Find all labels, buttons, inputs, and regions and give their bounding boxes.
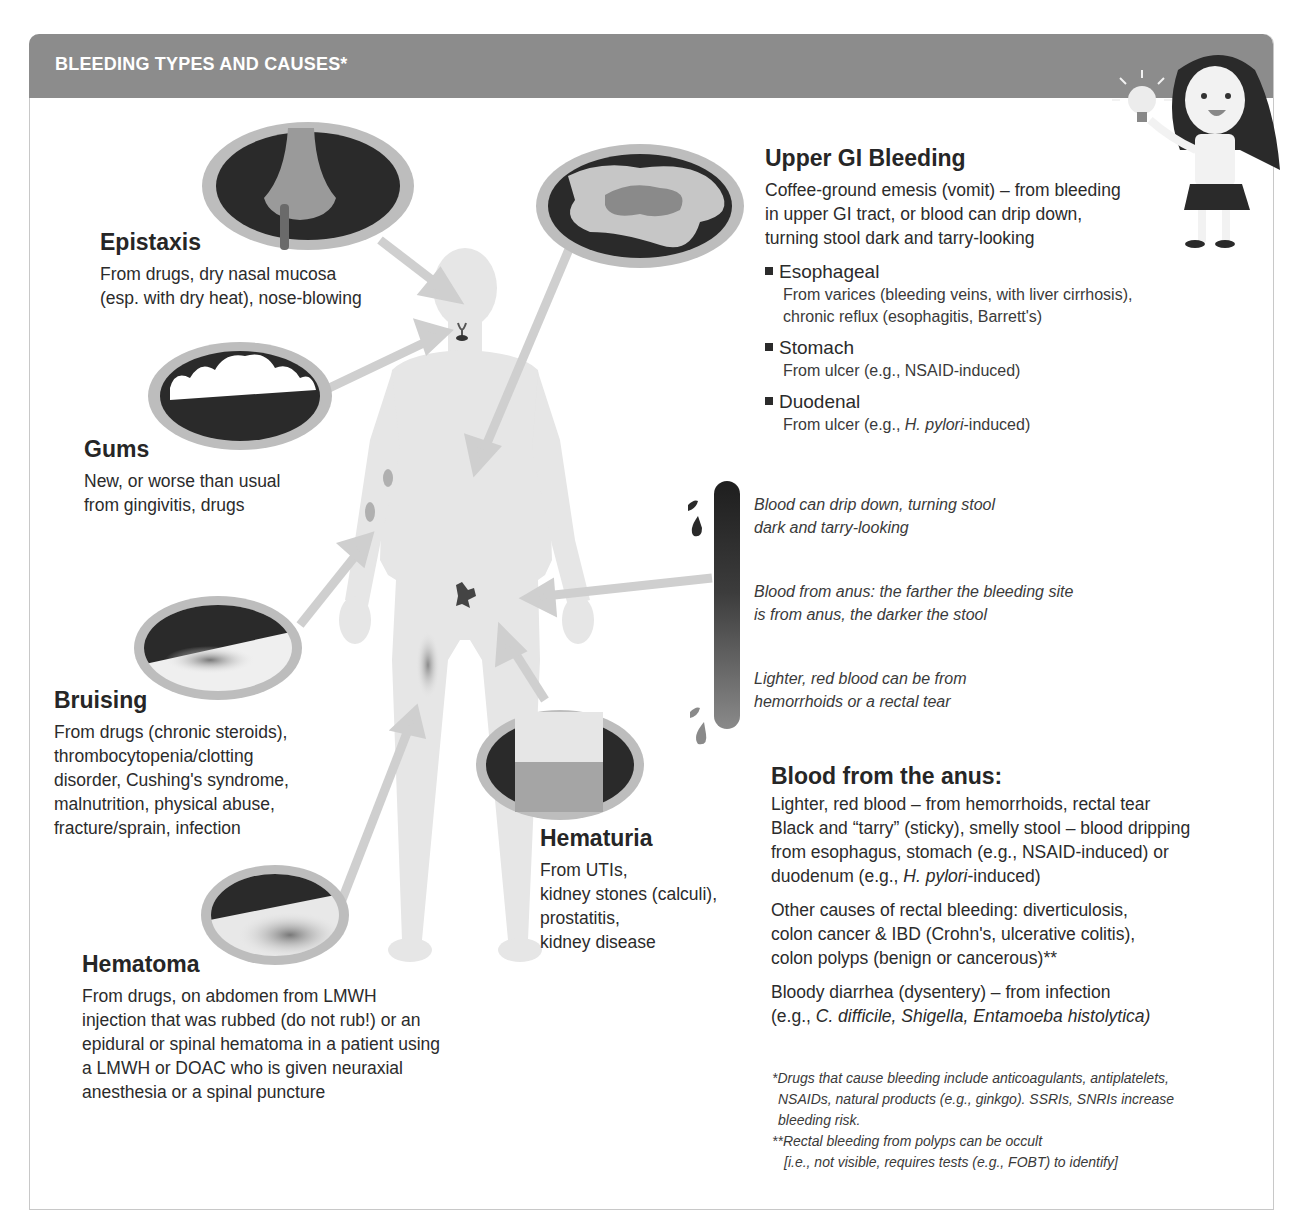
upper-gi-item-stomach: Stomach From ulcer (e.g., NSAID-induced) — [765, 336, 1132, 382]
upper-gi-line: turning stool dark and tarry-looking — [765, 226, 1132, 250]
footnote-2: **Rectal bleeding from polyps can be occ… — [772, 1131, 1174, 1173]
bar-note-top: Blood can drip down, turning stool dark … — [754, 493, 995, 539]
hematuria-line: kidney disease — [540, 930, 717, 954]
upper-gi-item-duodenal: Duodenal From ulcer (e.g., H. pylori-ind… — [765, 390, 1132, 436]
hematuria-section: Hematuria From UTIs, kidney stones (calc… — [540, 824, 717, 954]
hematoma-line: injection that was rubbed (do not rub!) … — [82, 1008, 440, 1032]
gums-section: Gums New, or worse than usual from gingi… — [84, 435, 281, 517]
gums-lens — [148, 342, 332, 450]
arm-bruise-mark — [383, 469, 393, 487]
emesis-lens — [536, 144, 744, 268]
epistaxis-line: From drugs, dry nasal mucosa — [100, 262, 362, 286]
bruising-line: From drugs (chronic steroids), — [54, 720, 289, 744]
footnotes: *Drugs that cause bleeding include antic… — [772, 1068, 1174, 1173]
hematuria-line: prostatitis, — [540, 906, 717, 930]
hematoma-section: Hematoma From drugs, on abdomen from LMW… — [82, 950, 440, 1104]
stool-color-gradient-bar — [714, 481, 740, 729]
hematuria-line: From UTIs, — [540, 858, 717, 882]
epistaxis-line: (esp. with dry heat), nose-blowing — [100, 286, 362, 310]
bullet-icon — [765, 343, 773, 351]
hematoma-line: From drugs, on abdomen from LMWH — [82, 984, 440, 1008]
epistaxis-section: Epistaxis From drugs, dry nasal mucosa (… — [100, 228, 362, 310]
light-blood-drops — [690, 708, 706, 745]
hematoma-line: a LMWH or DOAC who is given neuraxial — [82, 1056, 440, 1080]
bar-note-middle: Blood from anus: the farther the bleedin… — [754, 580, 1073, 626]
anus-title: Blood from the anus: — [771, 762, 1190, 790]
gums-line: from gingivitis, drugs — [84, 493, 281, 517]
epistaxis-title: Epistaxis — [100, 228, 362, 256]
bruising-line: malnutrition, physical abuse, — [54, 792, 289, 816]
bruise-lens — [134, 596, 302, 700]
hematuria-line: kidney stones (calculi), — [540, 882, 717, 906]
gums-line: New, or worse than usual — [84, 469, 281, 493]
bruising-line: thrombocytopenia/clotting — [54, 744, 289, 768]
hematoma-title: Hematoma — [82, 950, 440, 978]
upper-gi-line: Coffee-ground emesis (vomit) – from blee… — [765, 178, 1132, 202]
bruising-section: Bruising From drugs (chronic steroids), … — [54, 686, 289, 840]
gums-title: Gums — [84, 435, 281, 463]
upper-gi-line: in upper GI tract, or blood can drip dow… — [765, 202, 1132, 226]
upper-gi-item-esophageal: Esophageal From varices (bleeding veins,… — [765, 260, 1132, 328]
hematuria-title: Hematuria — [540, 824, 717, 852]
upper-gi-section: Upper GI Bleeding Coffee-ground emesis (… — [765, 144, 1132, 436]
urine-lens — [476, 710, 644, 820]
arm-bruise-mark — [365, 502, 375, 522]
bullet-icon — [765, 397, 773, 405]
thigh-bruise-mark — [416, 631, 440, 699]
girl-mascot-illustration — [1112, 55, 1280, 248]
hematoma-line: epidural or spinal hematoma in a patient… — [82, 1032, 440, 1056]
dark-blood-drops — [688, 501, 702, 537]
bruising-line: disorder, Cushing's syndrome, — [54, 768, 289, 792]
bullet-icon — [765, 267, 773, 275]
upper-gi-title: Upper GI Bleeding — [765, 144, 1132, 172]
anus-section: Blood from the anus: Lighter, red blood … — [771, 762, 1190, 1028]
footnote-1: *Drugs that cause bleeding include antic… — [772, 1068, 1174, 1131]
bruising-title: Bruising — [54, 686, 289, 714]
bruising-line: fracture/sprain, infection — [54, 816, 289, 840]
bar-note-bottom: Lighter, red blood can be from hemorrhoi… — [754, 667, 967, 713]
hematoma-line: anesthesia or a spinal puncture — [82, 1080, 440, 1104]
